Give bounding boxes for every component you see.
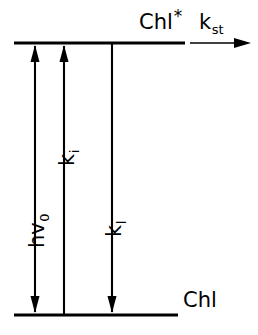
- loss-rate-label-text: k: [102, 225, 126, 237]
- loss-arrow-head: [108, 296, 117, 313]
- diagram-canvas: [0, 0, 258, 335]
- absorption-arrow-head-up: [31, 45, 40, 62]
- excited-state-label-text: Chl: [139, 10, 173, 34]
- loss-rate-label: kl: [104, 221, 125, 237]
- energy-level-diagram: Chl* kst Chl hv0 ki kl: [0, 0, 258, 335]
- excited-state-asterisk: *: [174, 6, 183, 26]
- absorption-energy-label-text: hv: [25, 222, 49, 248]
- absorption-energy-label: hv0: [27, 214, 48, 248]
- ground-state-label: Chl: [183, 290, 217, 311]
- absorption-energy-subscript: 0: [37, 213, 52, 221]
- ground-state-label-text: Chl: [183, 288, 217, 312]
- absorption-arrow-head-down: [31, 296, 40, 313]
- internal-rate-label-text: k: [55, 154, 79, 166]
- internal-rate-subscript: i: [67, 150, 82, 154]
- transfer-arrow-head: [234, 38, 251, 48]
- excited-state-label: Chl*: [139, 12, 181, 33]
- transfer-rate-label-text: k: [199, 10, 211, 34]
- internal-rate-label: ki: [57, 150, 78, 166]
- transfer-rate-subscript: st: [212, 22, 224, 37]
- loss-rate-subscript: l: [114, 221, 129, 225]
- transfer-rate-label: kst: [199, 12, 223, 33]
- internal-conversion-arrow-head: [60, 45, 69, 62]
